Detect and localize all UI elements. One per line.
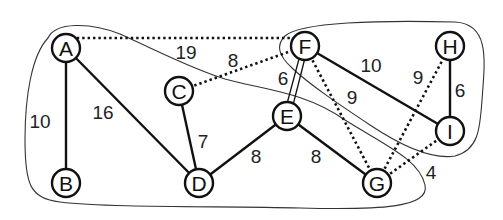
weight-A-B: 10 <box>29 111 50 132</box>
svg-text:E: E <box>280 105 294 128</box>
node-D: D <box>185 169 213 197</box>
edge-A-D <box>66 48 199 183</box>
weight-C-D: 7 <box>198 131 209 152</box>
svg-text:I: I <box>447 120 453 143</box>
node-E: E <box>273 102 301 130</box>
weight-A-F: 19 <box>175 42 196 63</box>
svg-text:C: C <box>171 80 186 103</box>
edge-D-E <box>199 116 287 183</box>
node-A: A <box>52 34 80 62</box>
svg-text:H: H <box>442 35 457 58</box>
node-F: F <box>291 32 319 60</box>
weight-H-I: 6 <box>455 80 466 101</box>
node-B: B <box>52 169 80 197</box>
edge-weights: 10 16 7 8 8 6 10 6 19 8 9 9 4 <box>29 42 465 183</box>
svg-text:D: D <box>191 172 206 195</box>
svg-text:A: A <box>59 37 73 60</box>
svg-text:G: G <box>369 172 385 195</box>
weight-E-F: 6 <box>278 68 289 89</box>
weight-F-I: 10 <box>360 55 381 76</box>
graph-diagram: 10 16 7 8 8 6 10 6 19 8 9 9 4 A B C <box>0 0 503 220</box>
weight-G-I: 4 <box>426 162 437 183</box>
weight-C-F: 8 <box>228 50 239 71</box>
weight-D-E: 8 <box>251 146 262 167</box>
node-G: G <box>363 169 391 197</box>
svg-text:F: F <box>299 35 312 58</box>
node-C: C <box>165 77 193 105</box>
weight-F-G: 9 <box>347 87 358 108</box>
node-H: H <box>436 32 464 60</box>
weight-G-H: 9 <box>413 67 424 88</box>
weight-A-D: 16 <box>92 102 113 123</box>
svg-text:B: B <box>59 172 73 195</box>
edge-E-G <box>287 116 377 183</box>
node-I: I <box>436 117 464 145</box>
weight-E-G: 8 <box>311 146 322 167</box>
